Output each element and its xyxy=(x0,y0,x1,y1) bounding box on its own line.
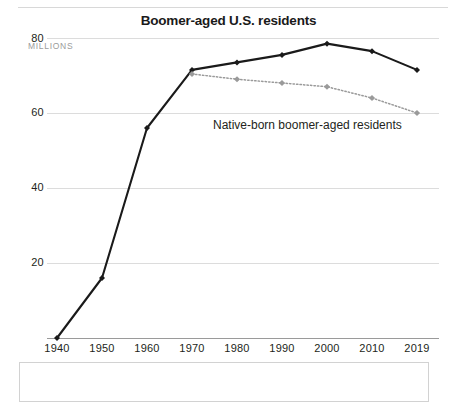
series-line-1 xyxy=(192,74,417,113)
data-point-marker xyxy=(279,52,285,58)
data-point-marker xyxy=(234,76,240,82)
series-line-0 xyxy=(57,44,417,338)
series-annotation-native-born: Native-born boomer-aged residents xyxy=(213,118,402,132)
data-point-marker xyxy=(324,41,330,47)
data-point-marker xyxy=(414,67,420,73)
data-point-marker xyxy=(234,59,240,65)
data-point-marker xyxy=(369,95,375,101)
data-point-marker xyxy=(279,80,285,86)
data-point-marker xyxy=(324,84,330,90)
data-point-marker xyxy=(414,110,420,116)
data-point-marker xyxy=(369,48,375,54)
footer-box xyxy=(19,362,429,402)
